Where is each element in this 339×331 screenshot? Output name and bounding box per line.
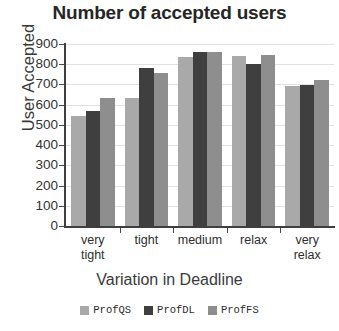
legend-item-proffs[interactable]: ProfFS xyxy=(208,304,259,316)
legend-label: ProfQS xyxy=(93,304,131,316)
y-axis-tick-label: 500 xyxy=(4,118,58,132)
bar-proffs-medium xyxy=(207,52,222,226)
bar-profqs-very-relax xyxy=(285,86,300,226)
legend-item-profqs[interactable]: ProfQS xyxy=(80,304,131,316)
bar-proffs-very-tight xyxy=(100,98,115,226)
x-axis-tick-label: veryrelax xyxy=(280,233,334,262)
x-axis-tick-label: verytight xyxy=(66,233,120,262)
bar-group xyxy=(71,44,115,226)
x-axis-tick-label-line: medium xyxy=(173,233,227,248)
bar-profqs-tight xyxy=(125,98,140,226)
x-axis-tick-label-line: tight xyxy=(66,248,120,263)
y-axis-tick-label: 300 xyxy=(4,158,58,172)
y-axis-tick-label: 100 xyxy=(4,199,58,213)
bar-profdl-relax xyxy=(246,64,261,226)
chart-legend: ProfQSProfDLProfFS xyxy=(0,304,339,316)
bar-proffs-relax xyxy=(261,55,276,226)
bar-profqs-relax xyxy=(232,56,247,226)
y-axis-tick-label: 800 xyxy=(4,57,58,71)
x-axis-tick-label: tight xyxy=(120,233,174,248)
legend-swatch-icon xyxy=(80,306,89,315)
bar-proffs-tight xyxy=(154,73,169,226)
x-axis-tick-label-line: very xyxy=(280,233,334,248)
bar-group xyxy=(232,44,276,226)
bar-group xyxy=(285,44,329,226)
plot-area xyxy=(66,44,334,226)
bar-profqs-medium xyxy=(178,57,193,226)
bar-profdl-very-tight xyxy=(86,111,101,226)
y-axis-tick-label: 0 xyxy=(4,219,58,233)
x-axis-tick-label: relax xyxy=(227,233,281,248)
legend-item-profdl[interactable]: ProfDL xyxy=(144,304,195,316)
y-axis-tick-label: 900 xyxy=(4,37,58,51)
y-axis-tick-label: 700 xyxy=(4,77,58,91)
bar-profdl-very-relax xyxy=(300,85,315,226)
legend-label: ProfDL xyxy=(157,304,195,316)
y-axis-tick-label: 200 xyxy=(4,179,58,193)
bar-group xyxy=(125,44,169,226)
bar-profdl-tight xyxy=(139,68,154,226)
chart-title: Number of accepted users xyxy=(0,2,339,24)
legend-label: ProfFS xyxy=(221,304,259,316)
x-axis-tick-label-line: very xyxy=(66,233,120,248)
bar-chart: Number of accepted users User Accepted 0… xyxy=(0,0,339,331)
bar-group xyxy=(178,44,222,226)
x-axis-tick-label: medium xyxy=(173,233,227,248)
x-axis-tick-label-line: tight xyxy=(120,233,174,248)
x-axis-line xyxy=(64,226,335,228)
x-axis-title: Variation in Deadline xyxy=(0,271,339,289)
bar-profqs-very-tight xyxy=(71,116,86,226)
legend-swatch-icon xyxy=(144,306,153,315)
bar-profdl-medium xyxy=(193,52,208,226)
y-axis-tick-label: 600 xyxy=(4,98,58,112)
y-axis-tick-label: 400 xyxy=(4,138,58,152)
x-axis-tick-label-line: relax xyxy=(280,248,334,263)
x-axis-tick-label-line: relax xyxy=(227,233,281,248)
bar-proffs-very-relax xyxy=(314,80,329,226)
legend-swatch-icon xyxy=(208,306,217,315)
